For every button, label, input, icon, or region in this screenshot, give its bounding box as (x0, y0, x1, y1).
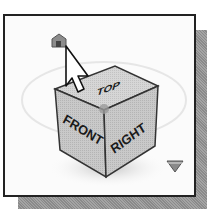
house-door (56, 41, 61, 47)
viewcube-widget[interactable]: TOP FRONT RIGHT (0, 0, 207, 209)
corner-hotspot[interactable] (99, 104, 109, 114)
home-button[interactable] (52, 34, 66, 47)
